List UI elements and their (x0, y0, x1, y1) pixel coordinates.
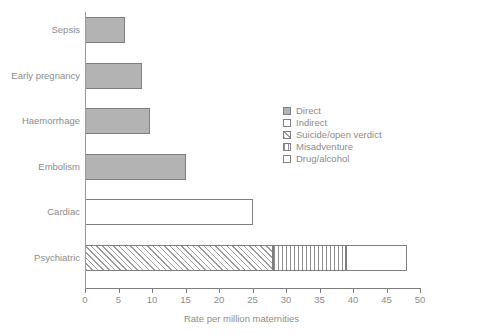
bar-segment-misadventure (273, 245, 347, 271)
legend-swatch-icon (283, 131, 291, 139)
bar-track (85, 242, 420, 274)
bar-segment-direct (85, 154, 186, 180)
x-tick (387, 288, 388, 293)
x-tick (320, 288, 321, 293)
legend-swatch-icon (283, 155, 291, 163)
chart-row: Haemorrhage (0, 105, 483, 137)
bar-segment-direct (85, 63, 142, 89)
legend-label: Suicide/open verdict (296, 129, 382, 140)
x-tick-label: 25 (247, 294, 258, 305)
legend-item: Suicide/open verdict (283, 129, 382, 140)
x-tick (286, 288, 287, 293)
y-axis-category-label: Embolism (38, 151, 80, 183)
x-tick-label: 5 (116, 294, 121, 305)
x-tick (253, 288, 254, 293)
x-tick-label: 0 (82, 294, 87, 305)
y-axis-category-label: Sepsis (51, 14, 80, 46)
chart-row: Sepsis (0, 14, 483, 46)
y-axis-category-label: Cardiac (47, 196, 80, 228)
bar-segment-suicide (85, 245, 273, 271)
legend-label: Drug/alcohol (296, 153, 349, 164)
x-tick-label: 30 (281, 294, 292, 305)
x-tick (353, 288, 354, 293)
y-axis-line (85, 12, 86, 288)
x-tick-label: 45 (381, 294, 392, 305)
bar-track (85, 196, 420, 228)
y-axis-category-label: Haemorrhage (22, 105, 80, 137)
x-tick (420, 288, 421, 293)
chart-row: Embolism (0, 151, 483, 183)
x-tick (186, 288, 187, 293)
legend-item: Misadventure (283, 141, 382, 152)
y-axis-category-label: Early pregnancy (11, 60, 80, 92)
bar-segment-drug (346, 245, 406, 271)
bar-chart: SepsisEarly pregnancyHaemorrhageEmbolism… (0, 0, 483, 334)
legend-label: Indirect (296, 117, 327, 128)
legend-swatch-icon (283, 143, 291, 151)
chart-row: Cardiac (0, 196, 483, 228)
legend-item: Direct (283, 105, 382, 116)
x-tick-label: 50 (415, 294, 426, 305)
x-tick-label: 20 (214, 294, 225, 305)
legend-item: Indirect (283, 117, 382, 128)
legend-label: Misadventure (296, 141, 353, 152)
x-tick (85, 288, 86, 293)
x-tick (119, 288, 120, 293)
bar-segment-indirect (85, 199, 253, 225)
legend-label: Direct (296, 105, 321, 116)
x-tick (219, 288, 220, 293)
y-axis-category-label: Psychiatric (34, 242, 80, 274)
bar-segment-direct (85, 17, 125, 43)
chart-legend: DirectIndirectSuicide/open verdictMisadv… (283, 105, 382, 165)
x-tick (152, 288, 153, 293)
x-tick-label: 15 (180, 294, 191, 305)
bar-track (85, 14, 420, 46)
legend-swatch-icon (283, 107, 291, 115)
legend-item: Drug/alcohol (283, 153, 382, 164)
bar-segment-direct (85, 108, 150, 134)
x-axis-title: Rate per million maternities (0, 313, 483, 324)
legend-swatch-icon (283, 119, 291, 127)
x-tick-label: 10 (147, 294, 158, 305)
x-tick-label: 35 (314, 294, 325, 305)
chart-row: Early pregnancy (0, 60, 483, 92)
bar-track (85, 60, 420, 92)
x-tick-label: 40 (348, 294, 359, 305)
chart-row: Psychiatric (0, 242, 483, 274)
